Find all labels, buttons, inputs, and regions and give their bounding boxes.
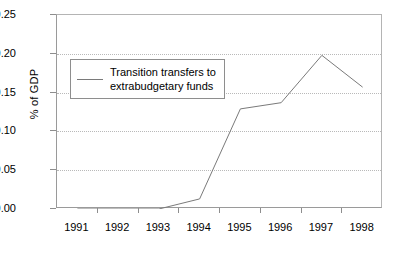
x-axis-tick-mark [97, 208, 98, 213]
x-axis-tick-mark [341, 208, 342, 213]
y-axis-title: % of GDP [28, 54, 40, 134]
legend-label: Transition transfers to extrabudgetary f… [110, 65, 216, 93]
legend-line-swatch [77, 79, 103, 80]
x-axis-tick-label: 1991 [54, 222, 98, 233]
x-axis-tick-label: 1996 [258, 222, 302, 233]
x-axis-tick-label: 1992 [95, 222, 139, 233]
x-axis-tick-mark [138, 208, 139, 213]
x-axis-tick-mark [301, 208, 302, 213]
line-chart: % of GDP 0.000.050.100.150.200.25 199119… [0, 0, 406, 253]
x-axis-tick-mark [260, 208, 261, 213]
y-axis-tick-label: 0.15 [0, 87, 16, 98]
x-axis-tick-mark [178, 208, 179, 213]
y-axis-tick-mark [50, 208, 56, 209]
y-axis-tick-label: 0.00 [0, 203, 16, 214]
x-axis-tick-label: 1994 [177, 222, 221, 233]
plot-area [56, 14, 382, 208]
x-axis-tick-label: 1998 [340, 222, 384, 233]
x-axis-tick-label: 1997 [299, 222, 343, 233]
y-axis-tick-label: 0.10 [0, 125, 16, 136]
x-axis-tick-mark [219, 208, 220, 213]
y-axis-tick-label: 0.05 [0, 164, 16, 175]
x-axis-tick-label: 1995 [217, 222, 261, 233]
series-lines [57, 15, 383, 209]
y-axis-tick-label: 0.25 [0, 9, 16, 20]
x-axis-tick-label: 1993 [136, 222, 180, 233]
chart-legend: Transition transfers to extrabudgetary f… [70, 59, 225, 99]
y-axis-tick-label: 0.20 [0, 48, 16, 59]
